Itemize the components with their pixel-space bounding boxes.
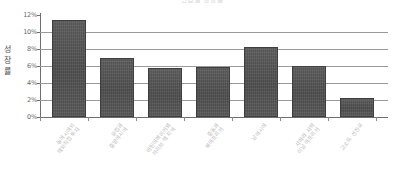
bar-0 <box>52 20 86 117</box>
x-label-5: 사하라 사막 이남 아프리카 <box>263 122 321 185</box>
chart-title: 산업별 성장률 <box>0 0 404 4</box>
y-tick-label-4: 4% <box>1 80 37 87</box>
bar-4 <box>244 47 278 117</box>
x-label-0: 동아시아의 해외직접 투자 <box>23 122 81 185</box>
bar-5 <box>292 66 326 117</box>
bar-3 <box>196 67 230 117</box>
y-tick-label-6: 6% <box>1 63 37 70</box>
x-label-2: 라틴아메리카와 카리브 해 지역 <box>119 122 177 185</box>
gridline-8 <box>40 49 388 50</box>
plot-area <box>40 15 388 117</box>
x-axis-category-labels: 동아시아의 해외직접 투자 유럽과 중앙아시아 라틴아메리카와 카리브 해 지역… <box>0 118 404 185</box>
y-tick-label-2: 2% <box>1 97 37 104</box>
x-label-1: 유럽과 중앙아시아 <box>71 122 129 185</box>
gridline-10 <box>40 32 388 33</box>
bar-6 <box>340 98 374 118</box>
bar-2 <box>148 68 182 117</box>
y-tick-label-10: 10% <box>1 29 37 36</box>
x-label-3: 중동과 북아프리카 <box>167 122 225 185</box>
y-tick-label-12: 12% <box>1 12 37 19</box>
y-tick-label-8: 8% <box>1 46 37 53</box>
bar-chart: 산업별 성장률 성 장 률 12% 10% 8% 6% 4% 2% 0% <box>0 0 404 185</box>
bar-1 <box>100 58 134 117</box>
